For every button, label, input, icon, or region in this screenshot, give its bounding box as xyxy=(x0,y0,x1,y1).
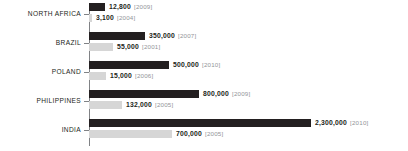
bar-primary xyxy=(89,119,311,127)
category-label: NORTH AFRICA xyxy=(0,11,84,18)
category-label: PHILIPPINES xyxy=(0,98,84,105)
bar-primary xyxy=(89,3,105,11)
bar-pair-primary: 800,000 [2009] xyxy=(89,90,250,98)
bar-year-label: [2007] xyxy=(178,33,196,39)
category-label: POLAND xyxy=(0,69,84,76)
chart-row-philippines: PHILIPPINES 800,000 [2009] 132,000 [2005… xyxy=(0,89,408,114)
chart-row-brazil: BRAZIL 350,000 [2007] 55,000 [2001] xyxy=(0,31,408,56)
bars-column: 350,000 [2007] 55,000 [2001] xyxy=(89,31,408,56)
bar-chart: NORTH AFRICA 12,800 [2009] 3,100 [2004] … xyxy=(0,0,408,151)
bar-primary xyxy=(89,61,169,69)
category-label: BRAZIL xyxy=(0,40,84,47)
bars-column: 2,300,000 [2010] 700,000 [2005] xyxy=(89,118,408,143)
bar-secondary xyxy=(89,14,92,22)
bar-primary xyxy=(89,90,199,98)
chart-row-india: INDIA 2,300,000 [2010] 700,000 [2005] xyxy=(0,118,408,143)
bar-value-label: 55,000 xyxy=(117,44,139,51)
bar-value-label: 2,300,000 xyxy=(315,120,347,127)
bars-column: 12,800 [2009] 3,100 [2004] xyxy=(89,2,408,27)
bar-pair-primary: 500,000 [2010] xyxy=(89,61,220,69)
bar-year-label: [2009] xyxy=(134,4,152,10)
bar-value-label: 3,100 xyxy=(96,15,114,22)
bar-year-label: [2006] xyxy=(135,73,153,79)
bar-secondary xyxy=(89,130,172,138)
bar-pair-primary: 12,800 [2009] xyxy=(89,3,152,11)
bar-year-label: [2010] xyxy=(202,62,220,68)
bar-year-label: [2009] xyxy=(232,91,250,97)
bar-secondary xyxy=(89,72,106,80)
bar-pair-secondary: 55,000 [2001] xyxy=(89,43,160,51)
bar-pair-secondary: 700,000 [2005] xyxy=(89,130,223,138)
bars-column: 500,000 [2010] 15,000 [2006] xyxy=(89,60,408,85)
bar-year-label: [2010] xyxy=(350,120,368,126)
bar-year-label: [2004] xyxy=(117,15,135,21)
chart-rows: NORTH AFRICA 12,800 [2009] 3,100 [2004] … xyxy=(0,0,408,151)
category-label: INDIA xyxy=(0,127,84,134)
bar-pair-secondary: 3,100 [2004] xyxy=(89,14,135,22)
bar-pair-secondary: 15,000 [2006] xyxy=(89,72,153,80)
bar-pair-primary: 350,000 [2007] xyxy=(89,32,196,40)
bar-year-label: [2005] xyxy=(155,102,173,108)
chart-row-north-africa: NORTH AFRICA 12,800 [2009] 3,100 [2004] xyxy=(0,2,408,27)
bar-year-label: [2001] xyxy=(142,44,160,50)
bar-value-label: 500,000 xyxy=(173,62,199,69)
bar-value-label: 15,000 xyxy=(110,73,132,80)
bars-column: 800,000 [2009] 132,000 [2005] xyxy=(89,89,408,114)
bar-primary xyxy=(89,32,145,40)
chart-row-poland: POLAND 500,000 [2010] 15,000 [2006] xyxy=(0,60,408,85)
bar-year-label: [2005] xyxy=(205,131,223,137)
bar-value-label: 132,000 xyxy=(126,102,152,109)
bar-value-label: 12,800 xyxy=(109,4,131,11)
bar-value-label: 350,000 xyxy=(149,33,175,40)
bar-pair-secondary: 132,000 [2005] xyxy=(89,101,173,109)
bar-pair-primary: 2,300,000 [2010] xyxy=(89,119,368,127)
bar-secondary xyxy=(89,101,122,109)
bar-secondary xyxy=(89,43,113,51)
bar-value-label: 800,000 xyxy=(203,91,229,98)
bar-value-label: 700,000 xyxy=(176,131,202,138)
